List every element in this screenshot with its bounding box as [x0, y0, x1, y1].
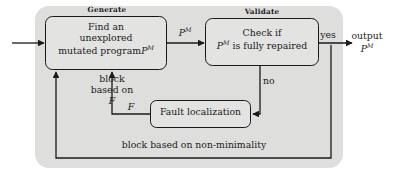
edge-no-label: no [263, 76, 281, 87]
edge-non-minimality-label: block based on non-minimality [104, 140, 284, 151]
node-check-repaired-label: Check if PM is fully repaired [206, 28, 318, 52]
edge-output-line1: output [344, 31, 390, 42]
node-find-program-line3-text: mutated program [58, 45, 141, 56]
node-check-repaired-superscript: M [223, 39, 229, 46]
phase-label-generate: Generate [84, 6, 130, 14]
edge-output-superscript: M [367, 42, 373, 49]
node-find-program-line2: unexplored [46, 33, 166, 44]
node-find-program-superscript: M [147, 44, 153, 51]
edge-program-superscript: M [185, 26, 191, 33]
edge-fault-f-label: F [124, 102, 138, 113]
node-fault-localization-label: Fault localization [151, 107, 250, 118]
node-find-program-line3: mutated programPM [46, 44, 166, 57]
node-check-repaired-line2: PM is fully repaired [206, 39, 318, 52]
flowchart-figure: Generate Validate Find an unexplored mut… [0, 0, 398, 179]
edge-output-line2: PM [344, 42, 390, 55]
edge-output-label: output PM [344, 31, 390, 55]
node-check-repaired-suffix: is fully repaired [233, 40, 308, 51]
edge-yes-label: yes [316, 30, 340, 41]
edge-program-label: PM [170, 26, 200, 39]
node-check-repaired-line1: Check if [206, 28, 318, 39]
node-find-program-label: Find an unexplored mutated programPM [46, 22, 166, 57]
phase-label-validate: Validate [239, 8, 285, 16]
